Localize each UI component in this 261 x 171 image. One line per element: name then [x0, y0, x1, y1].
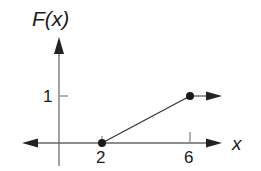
upper-right-arrow-icon [206, 92, 222, 101]
point-2-0 [98, 139, 106, 147]
cdf-chart: F(x) 1 2 6 x [0, 0, 261, 171]
x-axis-right-arrow-icon [206, 139, 222, 148]
x-axis-label: x [231, 133, 243, 154]
y-axis [54, 37, 64, 166]
x-axis-left-arrow-icon [22, 139, 38, 148]
y-axis-label: F(x) [32, 7, 69, 30]
x-tick-label-2: 2 [96, 148, 105, 167]
y-tick-label-1: 1 [43, 87, 52, 106]
cdf-line [98, 92, 222, 148]
x-axis [22, 139, 222, 148]
point-6-1 [186, 92, 194, 100]
y-axis-arrow-icon [54, 37, 64, 54]
x-tick-label-6: 6 [184, 148, 193, 167]
